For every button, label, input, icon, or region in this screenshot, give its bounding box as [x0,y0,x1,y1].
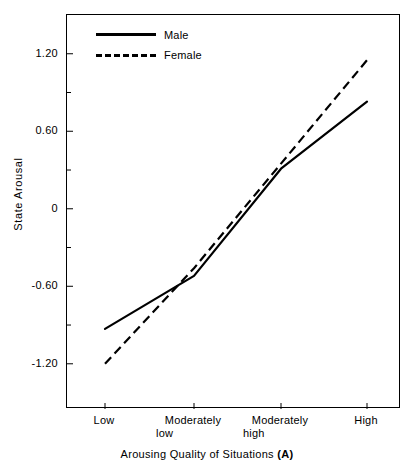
legend-item-male: Male [96,27,246,43]
series-line-male [105,102,367,329]
x-axis-ticks [105,403,367,409]
y-tick-label-3: 0 [0,202,58,214]
y-tick-label-2: 0.60 [0,124,58,136]
legend-item-female: Female [96,47,246,63]
y-tick-label-5: -1.20 [0,357,58,369]
x-axis-title-plain: Arousing Quality of Situations [121,448,278,460]
plot-area: Male Female [66,14,400,408]
y-tick-label-4: -0.60 [0,279,58,291]
figure: 1.20 0.60 0 -0.60 -1.20 State Arousal [0,0,414,475]
legend-label-female: Female [164,47,202,63]
x-tick-label-high-line1: High [311,414,414,427]
y-tick-label-1: 1.20 [0,47,58,59]
legend-swatch-dashed-icon [96,54,156,57]
x-axis-title: Arousing Quality of Situations (A) [0,448,414,460]
legend: Male Female [96,27,246,67]
plot-svg [67,15,401,409]
x-tick-label-moderately-high-line2: high [225,427,335,440]
series-line-female [105,60,367,364]
x-tick-label-high: High [311,414,414,427]
y-axis-ticks [67,54,73,364]
y-axis-title: State Arousal [12,144,24,244]
x-axis-title-bold: (A) [277,448,293,460]
legend-swatch-solid-icon [96,33,156,36]
legend-label-male: Male [164,27,189,43]
